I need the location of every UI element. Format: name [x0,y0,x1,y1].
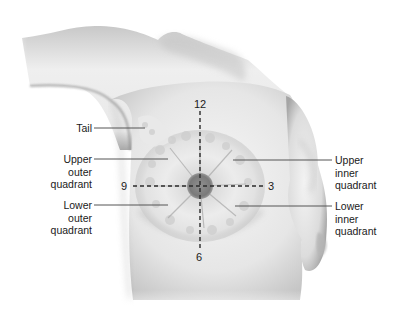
lower-outer-line-1: Lower [40,199,92,212]
upper-outer-line-2: outer [40,166,92,179]
upper-outer-line-3: quadrant [40,178,92,191]
bottom-fade [0,290,398,315]
lower-outer-line-2: outer [40,212,92,225]
upper-inner-line-1: Upper [335,154,395,167]
lower-outer-quadrant-label: Lower outer quadrant [40,199,92,237]
clock-3-label: 3 [268,180,274,192]
lower-inner-quadrant-label: Lower inner quadrant [335,200,395,238]
clock-12-label: 12 [194,98,206,110]
tail-label: Tail [60,122,92,135]
tail-label-text: Tail [76,122,92,134]
lower-inner-line-2: inner [335,213,395,226]
upper-inner-quadrant-label: Upper inner quadrant [335,154,395,192]
lower-inner-line-1: Lower [335,200,395,213]
upper-outer-quadrant-label: Upper outer quadrant [40,153,92,191]
lower-inner-line-3: quadrant [335,225,395,238]
lower-outer-line-3: quadrant [40,224,92,237]
clock-9-label: 9 [121,180,127,192]
upper-inner-line-3: quadrant [335,179,395,192]
clock-6-label: 6 [196,251,202,263]
upper-inner-line-2: inner [335,167,395,180]
upper-outer-line-1: Upper [40,153,92,166]
